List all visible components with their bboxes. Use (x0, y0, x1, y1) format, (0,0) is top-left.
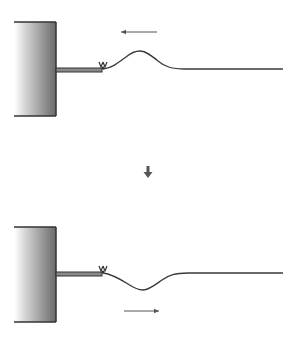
rod-bottom (56, 272, 102, 276)
reflected-panel (14, 227, 283, 322)
string-crest-pulse (103, 51, 283, 69)
arrow-down-icon (144, 166, 153, 178)
string-trough-pulse (103, 273, 283, 290)
rod-top (56, 68, 102, 72)
wall-top (14, 22, 56, 116)
wave-reflection-diagram (0, 0, 299, 345)
wall-bottom (14, 227, 56, 322)
incident-panel (14, 22, 283, 116)
